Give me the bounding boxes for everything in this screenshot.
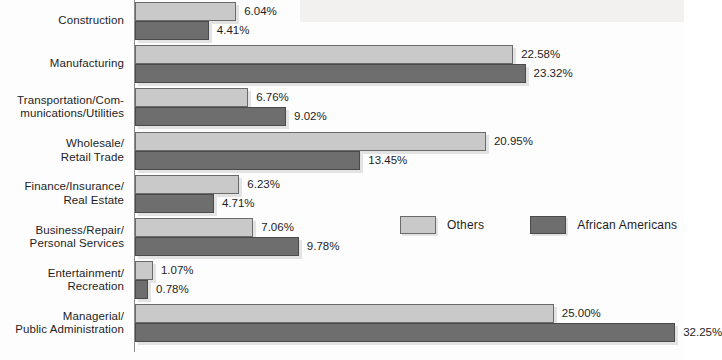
bar-rect — [135, 280, 148, 299]
bar-value-label: 25.00% — [557, 304, 601, 323]
bar-african-americans: 13.45% — [135, 151, 360, 170]
category-label: Construction — [0, 14, 124, 28]
bar-rect — [135, 323, 675, 342]
bar-african-americans: 4.71% — [135, 194, 214, 213]
bar-rect — [135, 194, 214, 213]
bar-group: Manufacturing22.58%23.32% — [0, 45, 684, 83]
bar-value-label: 6.04% — [239, 2, 277, 21]
bar-group: Wholesale/ Retail Trade20.95%13.45% — [0, 132, 684, 170]
bar-value-label: 6.76% — [251, 88, 289, 107]
bar-value-label: 23.32% — [529, 64, 573, 83]
bar-rect — [135, 261, 153, 280]
bar-value-label: 0.78% — [151, 280, 189, 299]
bar-others: 6.04% — [135, 2, 236, 21]
bar-others: 6.76% — [135, 88, 248, 107]
bar-group: Managerial/ Public Administration25.00%3… — [0, 304, 684, 342]
legend-label: African Americans — [577, 218, 677, 232]
bar-rect — [135, 2, 236, 21]
bar-rect — [135, 237, 299, 256]
bar-value-label: 4.71% — [217, 194, 255, 213]
bar-rect — [135, 175, 239, 194]
legend-item-others: Others — [400, 216, 484, 234]
bar-african-americans: 9.02% — [135, 107, 286, 126]
bar-value-label: 7.06% — [256, 218, 294, 237]
bar-group: Entertainment/ Recreation1.07%0.78% — [0, 261, 684, 299]
bar-african-americans: 4.41% — [135, 21, 209, 40]
bar-group: Construction6.04%4.41% — [0, 2, 684, 40]
bar-value-label: 4.41% — [212, 21, 250, 40]
category-label: Entertainment/ Recreation — [0, 267, 124, 294]
bar-group: Finance/Insurance/ Real Estate6.23%4.71% — [0, 175, 684, 213]
bar-rect — [135, 88, 248, 107]
chart-legend: OthersAfrican Americans — [400, 216, 677, 234]
bar-others: 1.07% — [135, 261, 153, 280]
category-label: Finance/Insurance/ Real Estate — [0, 180, 124, 207]
bar-value-label: 9.78% — [302, 237, 340, 256]
category-label: Business/Repair/ Personal Services — [0, 224, 124, 251]
bar-value-label: 20.95% — [489, 132, 533, 151]
legend-label: Others — [447, 218, 484, 232]
bar-group: Transportation/Com- munications/Utilitie… — [0, 88, 684, 126]
bar-african-americans: 9.78% — [135, 237, 299, 256]
bar-african-americans: 0.78% — [135, 280, 148, 299]
bar-african-americans: 23.32% — [135, 64, 526, 83]
bar-rect — [135, 132, 486, 151]
bar-others: 20.95% — [135, 132, 486, 151]
bar-rect — [135, 107, 286, 126]
bar-rect — [135, 151, 360, 170]
bar-others: 6.23% — [135, 175, 239, 194]
category-label: Wholesale/ Retail Trade — [0, 137, 124, 164]
category-label: Managerial/ Public Administration — [0, 310, 124, 337]
bar-rect — [135, 45, 513, 64]
bar-rect — [135, 218, 253, 237]
bar-value-label: 6.23% — [242, 175, 280, 194]
bar-value-label: 32.25% — [678, 323, 722, 342]
legend-swatch-icon — [530, 216, 566, 234]
bar-others: 25.00% — [135, 304, 554, 323]
bar-others: 7.06% — [135, 218, 253, 237]
bar-value-label: 1.07% — [156, 261, 194, 280]
category-label: Manufacturing — [0, 57, 124, 71]
bar-rect — [135, 21, 209, 40]
bar-value-label: 9.02% — [289, 107, 327, 126]
category-label: Transportation/Com- munications/Utilitie… — [0, 94, 124, 121]
bar-value-label: 13.45% — [363, 151, 407, 170]
bar-african-americans: 32.25% — [135, 323, 675, 342]
bar-others: 22.58% — [135, 45, 513, 64]
legend-swatch-icon — [400, 216, 436, 234]
bar-rect — [135, 304, 554, 323]
legend-item-african-americans: African Americans — [530, 216, 677, 234]
bar-rect — [135, 64, 526, 83]
bar-value-label: 22.58% — [516, 45, 560, 64]
